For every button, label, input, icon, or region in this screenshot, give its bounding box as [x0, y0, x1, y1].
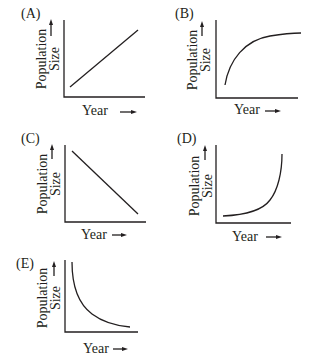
panel-b-ylabel: Population Size [186, 22, 212, 98]
panel-d-ylabel-line2: Size [201, 148, 214, 224]
panel-b-plot [200, 20, 301, 113]
panel-e-xlabel: Year [83, 342, 109, 356]
panel-d-label: (D) [177, 132, 196, 146]
panel-c-label: (C) [21, 132, 40, 146]
panel-e-axes [65, 260, 138, 332]
panel-d-curve [223, 154, 282, 216]
panel-b-axes [216, 20, 298, 98]
panel-a-ylabel-line2: Size [48, 21, 61, 97]
panel-c-plot [50, 144, 146, 237]
panel-b-ylabel-line2: Size [199, 22, 212, 98]
panel-d-ylabel: Population Size [188, 148, 214, 224]
panel-e-ylabel-line2: Size [49, 260, 62, 336]
panel-a-curve [70, 30, 138, 87]
panel-d-plot [203, 145, 291, 239]
panel-e-curve [72, 262, 130, 327]
panel-b-label: (B) [175, 7, 194, 21]
panel-a-xlabel: Year [82, 104, 108, 118]
panel-c-ylabel: Population Size [36, 146, 62, 222]
panel-e-ylabel: Population Size [36, 260, 62, 336]
panel-a-plot [49, 19, 145, 114]
panel-c-xlabel: Year [81, 228, 107, 242]
panel-d-xlabel: Year [232, 230, 258, 244]
panel-e-plot [52, 260, 138, 351]
panel-b-xlabel: Year [234, 103, 260, 117]
panel-a-ylabel: Population Size [35, 21, 61, 97]
panel-c-ylabel-line2: Size [49, 146, 62, 222]
panel-e-label: (E) [16, 257, 34, 271]
panel-c-curve [72, 151, 138, 214]
panel-a-label: (A) [21, 7, 40, 21]
panel-b-curve [225, 33, 301, 85]
